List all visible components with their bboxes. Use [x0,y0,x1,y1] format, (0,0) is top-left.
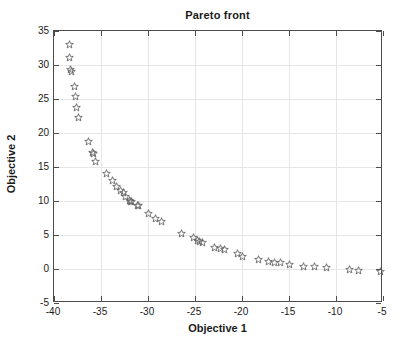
x-tick [54,296,55,301]
data-point-star-icon [216,244,225,253]
data-point-star-icon [195,237,204,246]
data-point-star-icon [72,103,81,112]
y-tick-label: 0 [43,263,49,274]
data-point-star-icon [89,149,98,158]
y-tick-label: 10 [38,195,49,206]
gridline-horizontal [54,99,381,100]
x-tick-label: -30 [140,306,154,317]
data-point-star-icon [74,113,83,122]
data-point-star-icon [65,40,74,49]
x-tick-top [148,31,149,36]
y-tick-right [376,269,381,270]
y-tick [54,65,59,66]
y-axis-tick-labels: -505101520253035 [20,30,49,302]
x-tick-label: -35 [93,306,107,317]
gridline-horizontal [54,133,381,134]
x-tick-label: -25 [187,306,201,317]
data-point-star-icon [66,65,75,74]
x-tick [289,296,290,301]
gridline-vertical [242,31,243,301]
data-point-star-icon [119,188,128,197]
data-point-star-icon [134,201,143,210]
gridline-horizontal [54,65,381,66]
y-tick-label: 20 [38,127,49,138]
data-point-star-icon [65,53,74,62]
gridline-vertical [289,31,290,301]
data-point-star-icon [67,67,76,76]
data-point-star-icon [254,255,263,264]
data-point-star-icon [70,82,79,91]
data-point-star-icon [220,245,229,254]
y-tick-right [376,31,381,32]
y-tick [54,235,59,236]
data-point-star-icon [112,182,121,191]
y-tick [54,99,59,100]
x-tick [101,296,102,301]
data-point-star-icon [88,148,97,157]
data-point-star-icon [84,137,93,146]
x-tick [242,296,243,301]
x-tick [148,296,149,301]
gridline-vertical [336,31,337,301]
data-point-star-icon [276,258,285,267]
y-tick-right [376,201,381,202]
data-point-star-icon [210,243,219,252]
data-point-star-icon [116,186,125,195]
x-tick-label: -40 [46,306,60,317]
y-tick-label: 15 [38,161,49,172]
y-tick-right [376,167,381,168]
gridline-vertical [148,31,149,301]
y-tick-label: 5 [43,229,49,240]
gridline-horizontal [54,235,381,236]
gridline-vertical [195,31,196,301]
x-tick-top [195,31,196,36]
gridline-horizontal [54,167,381,168]
x-tick-label: -10 [328,306,342,317]
data-point-star-icon [233,249,242,258]
y-tick [54,167,59,168]
data-point-star-icon [157,217,166,226]
data-point-star-icon [264,257,273,266]
x-tick-top [336,31,337,36]
y-tick [54,303,59,304]
y-tick-right [376,235,381,236]
chart-title: Pareto front [53,9,382,21]
gridline-horizontal [54,201,381,202]
data-point-star-icon [102,169,111,178]
data-point-star-icon [354,266,363,275]
plot-area [53,30,382,302]
data-point-star-icon [376,267,385,276]
y-tick-label: 25 [38,93,49,104]
data-point-star-icon [270,258,279,267]
data-point-star-icon [91,157,100,166]
gridline-vertical [101,31,102,301]
y-tick-label: 30 [38,59,49,70]
x-tick-top [242,31,243,36]
y-tick-right [376,133,381,134]
data-point-star-icon [177,229,186,238]
y-tick-right [376,65,381,66]
data-point-star-icon [71,92,80,101]
data-point-star-icon [322,263,331,272]
data-point-star-icon [310,262,319,271]
x-tick [336,296,337,301]
x-tick-top [101,31,102,36]
y-tick [54,269,59,270]
x-tick-top [289,31,290,36]
data-point-star-icon [151,214,160,223]
y-tick-label: 35 [38,25,49,36]
x-tick [383,296,384,301]
x-tick-label: -15 [281,306,295,317]
data-point-star-icon [198,238,207,247]
y-tick [54,201,59,202]
y-tick [54,133,59,134]
y-tick-right [376,99,381,100]
x-axis-title: Objective 1 [53,322,382,334]
x-tick-label: -5 [378,306,387,317]
x-tick-top [54,31,55,36]
x-axis-tick-labels: -40-35-30-25-20-15-10-5 [53,306,382,320]
y-axis-title: Objective 2 [5,94,17,234]
x-tick-label: -20 [234,306,248,317]
chart-screenshot: Pareto front -505101520253035 -40-35-30-… [0,0,415,353]
y-tick-right [376,303,381,304]
